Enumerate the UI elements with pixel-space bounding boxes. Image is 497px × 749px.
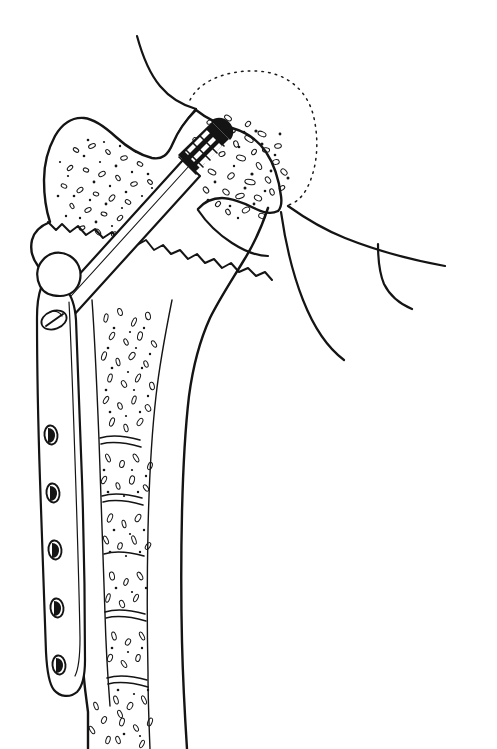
- illustration-canvas: Dynamic hip screw fixation of an intertr…: [0, 0, 497, 749]
- barrel-sleeve: [37, 253, 80, 296]
- femur-dhs-illustration: Dynamic hip screw fixation of an intertr…: [0, 0, 497, 749]
